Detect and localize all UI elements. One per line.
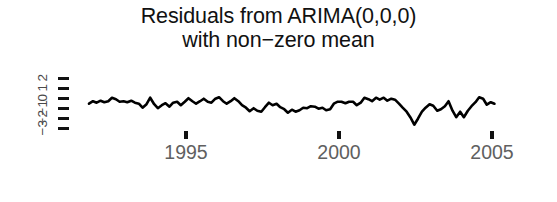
x-axis-tick bbox=[490, 131, 493, 139]
plot-area: 210−1−2−3 199520002005 bbox=[0, 0, 557, 202]
y-axis-tick bbox=[58, 107, 69, 110]
y-axis-tick bbox=[58, 127, 69, 130]
x-axis-tick bbox=[184, 131, 187, 139]
y-axis-tick bbox=[58, 117, 69, 120]
x-axis-tick bbox=[337, 131, 340, 139]
y-axis-tick bbox=[58, 77, 69, 80]
y-axis-ticks bbox=[56, 70, 72, 136]
y-axis-tick bbox=[58, 97, 69, 100]
x-axis-tick-label: 2000 bbox=[304, 141, 374, 164]
y-axis-tick-label: −3 bbox=[36, 115, 50, 141]
x-axis-tick-label: 1995 bbox=[151, 141, 221, 164]
residuals-series-line bbox=[0, 0, 557, 202]
residuals-time-series-figure: Residuals from ARIMA(0,0,0) with non−zer… bbox=[0, 0, 557, 202]
y-axis-tick bbox=[58, 87, 69, 90]
x-axis-tick-label: 2005 bbox=[457, 141, 527, 164]
y-axis-labels: 210−1−2−3 bbox=[30, 66, 56, 140]
